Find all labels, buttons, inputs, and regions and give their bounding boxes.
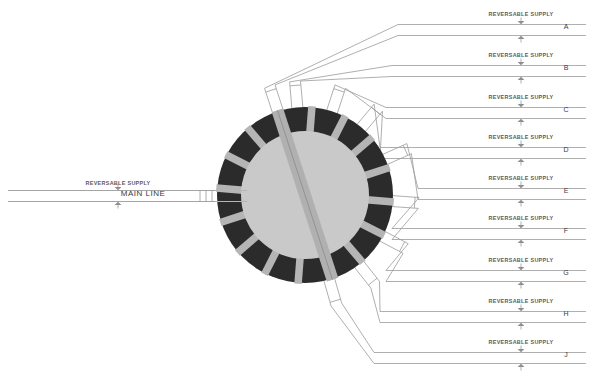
branch-gauge-tie [334, 89, 344, 92]
branch-gauge-tie [330, 299, 341, 302]
branch-track-C[interactable] [326, 85, 586, 119]
supply-arrow-out-main [115, 202, 122, 205]
turntable-track-diagram: REVERSABLE SUPPLYAREVERSABLE SUPPLYBREVE… [0, 0, 592, 386]
supply-arrow-in-J [518, 349, 525, 352]
supply-arrow-in-G [518, 267, 525, 270]
branch-rail [382, 230, 586, 271]
branch-rail [388, 206, 586, 239]
branch-rail [389, 195, 586, 228]
supply-label-G: REVERSABLE SUPPLY [488, 257, 553, 263]
branch-track-G[interactable] [377, 230, 586, 282]
main-line-layer [8, 191, 218, 202]
supply-arrow-out-H [518, 323, 525, 326]
supply-arrow-in-A [518, 21, 525, 24]
supply-arrow-out-D [518, 159, 525, 162]
supply-arrow-out-B [518, 77, 525, 80]
branch-letter-B: B [564, 64, 569, 71]
main-line-track[interactable] [8, 191, 218, 202]
main-line-label: MAIN LINE [121, 189, 166, 198]
supply-label-B: REVERSABLE SUPPLY [488, 52, 553, 58]
turntable-layer [215, 106, 394, 284]
supply-arrow-out-C [518, 119, 525, 122]
branch-rail [355, 104, 586, 147]
branch-gauge-tie [368, 278, 377, 285]
supply-arrow-out-J [518, 364, 525, 367]
branch-rail [275, 36, 586, 114]
branch-gauge-tie [414, 197, 415, 208]
branch-rail [265, 25, 587, 117]
branch-letter-F: F [564, 227, 568, 234]
branch-track-H[interactable] [352, 258, 586, 323]
branch-rail [323, 277, 586, 363]
supply-label-F: REVERSABLE SUPPLY [488, 215, 553, 221]
supply-label-E: REVERSABLE SUPPLY [488, 175, 553, 181]
branch-gauge-tie [403, 145, 407, 155]
supply-arrow-out-E [518, 200, 525, 203]
branch-rail [352, 265, 586, 323]
supply-arrow-in-C [518, 104, 525, 107]
supply-label-H: REVERSABLE SUPPLY [488, 298, 553, 304]
supply-arrow-in-B [518, 62, 525, 65]
supply-arrow-in-F [518, 225, 525, 228]
supply-arrow-in-H [518, 308, 525, 311]
branch-letter-A: A [564, 23, 569, 30]
supply-label-D: REVERSABLE SUPPLY [488, 134, 553, 140]
branch-rail [380, 144, 587, 189]
branch-rail [384, 154, 586, 200]
supply-label-main-line: REVERSABLE SUPPLY [85, 180, 150, 186]
branch-gauge-tie [400, 242, 405, 252]
branch-rail [377, 239, 586, 281]
branch-track-E[interactable] [380, 144, 587, 200]
branch-track-A[interactable] [265, 25, 587, 117]
branch-gauge-tie [266, 89, 276, 92]
supply-arrow-out-G [518, 282, 525, 285]
branch-letter-G: G [563, 269, 568, 276]
branch-track-F[interactable] [388, 195, 586, 239]
branch-track-J[interactable] [323, 274, 586, 363]
supply-arrow-out-A [518, 36, 525, 39]
supply-arrow-in-D [518, 144, 525, 147]
branch-letter-C: C [563, 106, 568, 113]
supply-label-J: REVERSABLE SUPPLY [488, 339, 553, 345]
supply-label-A: REVERSABLE SUPPLY [488, 11, 553, 17]
supply-arrow-in-E [518, 185, 525, 188]
supply-arrow-out-F [518, 240, 525, 243]
branch-gauge-tie [290, 85, 301, 86]
branch-letter-J: J [564, 351, 568, 358]
branch-rail [336, 88, 586, 118]
branch-letter-E: E [564, 187, 569, 194]
branch-track-D[interactable] [355, 104, 586, 158]
supply-label-C: REVERSABLE SUPPLY [488, 94, 553, 100]
branch-letter-H: H [563, 310, 568, 317]
branch-letter-D: D [563, 146, 568, 153]
